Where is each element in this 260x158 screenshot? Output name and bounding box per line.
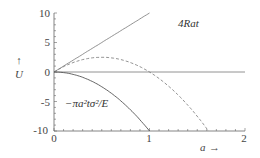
x-arrow-icon: → [209,141,220,153]
series-total [54,57,209,131]
x-tick-1: 1 [146,132,152,144]
y-tick-10: 10 [39,7,51,19]
y-tick-neg10: -10 [33,124,48,136]
chart: 10 5 0 -5 -10 0 1 2 ↑ U a → 4Rat −πa²tσ²… [0,0,260,158]
y-axis-label: U [15,68,24,80]
x-axis-label: a [200,141,206,153]
annotation-4rat: 4Rat [178,17,200,29]
series-4rat [54,13,150,72]
y-tick-0: 0 [45,66,51,78]
x-tick-0: 0 [51,132,57,144]
y-tick-neg5: -5 [41,96,51,108]
annotation-parabola: −πa²tσ²/E [65,97,109,109]
y-arrow-icon: ↑ [16,54,22,66]
y-tick-5: 5 [45,36,51,48]
x-tick-2: 2 [241,132,247,144]
